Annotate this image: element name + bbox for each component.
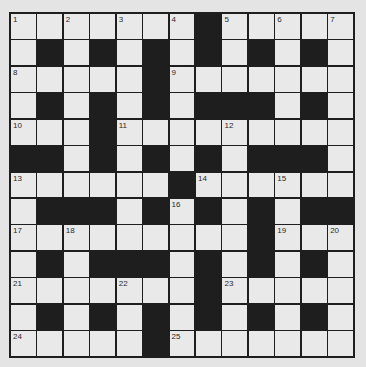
grid-cell[interactable] — [275, 331, 300, 356]
grid-cell[interactable] — [196, 120, 221, 145]
grid-cell[interactable] — [117, 225, 142, 250]
grid-cell[interactable] — [117, 146, 142, 171]
grid-cell[interactable] — [222, 225, 247, 250]
grid-cell[interactable] — [11, 40, 36, 65]
grid-cell[interactable] — [64, 252, 89, 277]
grid-cell[interactable]: 9 — [170, 67, 195, 92]
grid-cell[interactable]: 16 — [170, 199, 195, 224]
grid-cell[interactable] — [143, 14, 168, 39]
grid-cell[interactable] — [64, 40, 89, 65]
grid-cell[interactable] — [275, 120, 300, 145]
grid-cell[interactable] — [64, 173, 89, 198]
grid-cell[interactable] — [302, 278, 327, 303]
grid-cell[interactable] — [117, 67, 142, 92]
grid-cell[interactable]: 10 — [11, 120, 36, 145]
grid-cell[interactable] — [170, 225, 195, 250]
grid-cell[interactable] — [328, 120, 353, 145]
grid-cell[interactable] — [275, 93, 300, 118]
grid-cell[interactable] — [275, 199, 300, 224]
grid-cell[interactable] — [117, 173, 142, 198]
grid-cell[interactable]: 25 — [170, 331, 195, 356]
grid-cell[interactable] — [170, 278, 195, 303]
grid-cell[interactable]: 23 — [222, 278, 247, 303]
grid-cell[interactable] — [170, 40, 195, 65]
grid-cell[interactable] — [37, 120, 62, 145]
grid-cell[interactable] — [11, 305, 36, 330]
grid-cell[interactable] — [64, 278, 89, 303]
grid-cell[interactable]: 8 — [11, 67, 36, 92]
grid-cell[interactable] — [37, 225, 62, 250]
grid-cell[interactable]: 13 — [11, 173, 36, 198]
grid-cell[interactable] — [64, 146, 89, 171]
grid-cell[interactable] — [117, 40, 142, 65]
grid-cell[interactable] — [302, 225, 327, 250]
grid-cell[interactable] — [222, 40, 247, 65]
grid-cell[interactable] — [196, 67, 221, 92]
grid-cell[interactable]: 1 — [11, 14, 36, 39]
grid-cell[interactable] — [37, 331, 62, 356]
grid-cell[interactable] — [11, 93, 36, 118]
grid-cell[interactable] — [64, 93, 89, 118]
grid-cell[interactable] — [249, 67, 274, 92]
grid-cell[interactable]: 11 — [117, 120, 142, 145]
grid-cell[interactable] — [170, 252, 195, 277]
grid-cell[interactable] — [249, 14, 274, 39]
grid-cell[interactable] — [37, 173, 62, 198]
grid-cell[interactable]: 12 — [222, 120, 247, 145]
grid-cell[interactable] — [249, 331, 274, 356]
grid-cell[interactable] — [90, 331, 115, 356]
grid-cell[interactable] — [143, 120, 168, 145]
grid-cell[interactable]: 14 — [196, 173, 221, 198]
grid-cell[interactable] — [275, 278, 300, 303]
grid-cell[interactable] — [328, 93, 353, 118]
grid-cell[interactable] — [249, 173, 274, 198]
grid-cell[interactable] — [117, 93, 142, 118]
grid-cell[interactable] — [249, 278, 274, 303]
grid-cell[interactable] — [117, 331, 142, 356]
grid-cell[interactable] — [170, 305, 195, 330]
grid-cell[interactable]: 7 — [328, 14, 353, 39]
grid-cell[interactable] — [143, 173, 168, 198]
grid-cell[interactable]: 21 — [11, 278, 36, 303]
grid-cell[interactable] — [117, 305, 142, 330]
grid-cell[interactable] — [275, 67, 300, 92]
grid-cell[interactable]: 18 — [64, 225, 89, 250]
grid-cell[interactable] — [222, 331, 247, 356]
grid-cell[interactable] — [222, 146, 247, 171]
grid-cell[interactable] — [170, 120, 195, 145]
grid-cell[interactable]: 19 — [275, 225, 300, 250]
grid-cell[interactable]: 2 — [64, 14, 89, 39]
grid-cell[interactable] — [222, 173, 247, 198]
grid-cell[interactable] — [302, 331, 327, 356]
grid-cell[interactable] — [275, 305, 300, 330]
grid-cell[interactable] — [222, 305, 247, 330]
grid-cell[interactable] — [275, 40, 300, 65]
grid-cell[interactable] — [64, 67, 89, 92]
grid-cell[interactable]: 22 — [117, 278, 142, 303]
grid-cell[interactable] — [302, 14, 327, 39]
grid-cell[interactable]: 6 — [275, 14, 300, 39]
grid-cell[interactable] — [37, 67, 62, 92]
grid-cell[interactable] — [222, 199, 247, 224]
grid-cell[interactable] — [328, 146, 353, 171]
grid-cell[interactable] — [64, 305, 89, 330]
grid-cell[interactable] — [11, 199, 36, 224]
grid-cell[interactable] — [170, 146, 195, 171]
grid-cell[interactable] — [64, 331, 89, 356]
grid-cell[interactable] — [249, 120, 274, 145]
grid-cell[interactable] — [117, 199, 142, 224]
grid-cell[interactable] — [275, 252, 300, 277]
grid-cell[interactable] — [328, 331, 353, 356]
grid-cell[interactable] — [196, 331, 221, 356]
grid-cell[interactable]: 3 — [117, 14, 142, 39]
grid-cell[interactable] — [328, 252, 353, 277]
grid-cell[interactable] — [170, 93, 195, 118]
grid-cell[interactable] — [64, 120, 89, 145]
grid-cell[interactable]: 24 — [11, 331, 36, 356]
grid-cell[interactable] — [302, 120, 327, 145]
grid-cell[interactable]: 15 — [275, 173, 300, 198]
grid-cell[interactable] — [328, 67, 353, 92]
grid-cell[interactable] — [11, 252, 36, 277]
grid-cell[interactable] — [143, 278, 168, 303]
grid-cell[interactable]: 17 — [11, 225, 36, 250]
